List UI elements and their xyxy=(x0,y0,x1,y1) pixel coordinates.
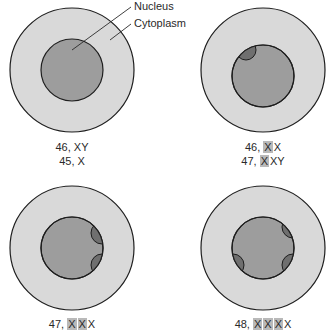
karyotype-label: 47, XXY xyxy=(228,154,298,168)
cell-three-barr-bodies xyxy=(201,186,325,310)
karyotype-label: 45, X xyxy=(42,154,102,168)
inactive-x-highlight: X xyxy=(78,318,87,330)
karyotype-label: 46, XY xyxy=(42,140,102,154)
inactive-x-highlight: X xyxy=(263,141,272,153)
inactive-x-highlight: X xyxy=(260,155,269,167)
cytoplasm-label: Cytoplasm xyxy=(134,17,186,30)
inactive-x-highlight: X xyxy=(263,318,272,330)
karyotype-labels-cell-4: 48, XXXX xyxy=(218,317,308,331)
karyotype-labels-cell-3: 47, XXX xyxy=(32,317,112,331)
nucleus-label: Nucleus xyxy=(134,0,174,13)
karyotype-label: 47, XXX xyxy=(32,317,112,331)
karyotype-labels-cell-1: 46, XY45, X xyxy=(42,140,102,168)
karyotype-label: 48, XXXX xyxy=(218,317,308,331)
inactive-x-highlight: X xyxy=(67,318,76,330)
inactive-x-highlight: X xyxy=(253,318,262,330)
cell-two-barr-bodies xyxy=(10,186,134,310)
inactive-x-highlight: X xyxy=(274,318,283,330)
nucleus xyxy=(41,39,103,101)
karyotype-label: 46, XX xyxy=(228,140,298,154)
karyotype-labels-cell-2: 46, XX47, XXY xyxy=(228,140,298,168)
cell-normal-male xyxy=(10,8,134,132)
cell-one-barr-body xyxy=(201,8,325,132)
